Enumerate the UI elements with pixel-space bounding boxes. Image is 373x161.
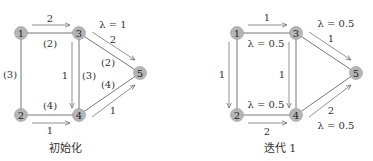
label-cap-3-5: (2) <box>101 57 115 68</box>
edge-4-5 <box>296 73 356 115</box>
node-1: 1 <box>231 27 244 40</box>
label-flow-3-5: 2 <box>110 34 116 45</box>
node-4: 4 <box>73 109 86 122</box>
label-flow-3-4: 1 <box>279 69 285 80</box>
node-2: 2 <box>231 109 244 122</box>
svg-text:5: 5 <box>137 68 143 79</box>
diagram-canvas: 2 (2) (3) (4) 1 1 (3) λ = 1 2 (2) (4) 1 … <box>0 0 373 161</box>
label-lambda-3-5: λ = 1 <box>99 19 126 30</box>
caption-initialization: 初始化 <box>49 141 82 155</box>
svg-text:4: 4 <box>76 110 82 121</box>
svg-text:1: 1 <box>234 28 240 39</box>
label-flow-1-2: 1 <box>219 69 225 80</box>
label-flow-1-3: 2 <box>47 13 53 24</box>
svg-text:4: 4 <box>293 110 299 121</box>
svg-text:2: 2 <box>18 110 24 121</box>
label-flow-2-4: 2 <box>264 126 270 137</box>
label-flow-2-4: 1 <box>47 125 53 136</box>
caption-iteration-1: 迭代 1 <box>264 142 297 155</box>
label-cap-4-5: (4) <box>101 79 115 90</box>
label-cap-1-3: (2) <box>43 38 57 49</box>
panel-iteration-1: 1 λ = 0.5 1 λ = 0.5 2 1 λ = 0.5 1 2 λ = … <box>219 12 363 155</box>
svg-text:2: 2 <box>234 110 240 121</box>
label-cap-2-4: (4) <box>43 100 57 111</box>
svg-text:3: 3 <box>293 28 299 39</box>
svg-text:5: 5 <box>353 68 359 79</box>
node-3: 3 <box>290 27 303 40</box>
label-flow-3-4: 1 <box>62 70 68 81</box>
label-lambda-2-4: λ = 0.5 <box>248 99 285 110</box>
node-5: 5 <box>134 67 147 80</box>
node-5: 5 <box>350 67 363 80</box>
label-lambda-1-3: λ = 0.5 <box>248 38 285 49</box>
label-flow-4-5: 1 <box>110 105 116 116</box>
label-flow-3-5: 1 <box>328 33 334 44</box>
label-flow-4-5: 2 <box>328 105 334 116</box>
node-4: 4 <box>290 109 303 122</box>
node-3: 3 <box>73 27 86 40</box>
label-flow-1-3: 1 <box>264 12 270 23</box>
label-lambda-4-5: λ = 0.5 <box>318 120 355 131</box>
node-2: 2 <box>15 109 28 122</box>
svg-text:1: 1 <box>18 28 24 39</box>
label-cap-3-4: (3) <box>82 70 96 81</box>
svg-text:3: 3 <box>76 28 82 39</box>
label-cap-1-2: (3) <box>3 69 17 80</box>
node-1: 1 <box>15 27 28 40</box>
panel-initialization: 2 (2) (3) (4) 1 1 (3) λ = 1 2 (2) (4) 1 … <box>3 13 147 155</box>
edge-3-5 <box>296 33 356 73</box>
label-lambda-3-5: λ = 0.5 <box>318 18 355 29</box>
